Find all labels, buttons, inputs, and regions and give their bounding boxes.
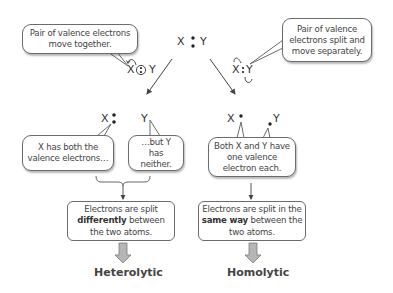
heterolytic-label: Heterolytic <box>94 266 163 279</box>
heterolytic-summary-emphasis: differently <box>77 215 126 225</box>
single-electron-dots-icon <box>239 114 271 125</box>
callout-pair-moves-together: Pair of valence electrons move together. <box>22 24 138 54</box>
heterolytic-mechanism-y: Y <box>149 63 156 76</box>
heterolytic-summary-box: Electrons are split differently between … <box>67 201 175 241</box>
heterolytic-summary-pre: Electrons are split <box>84 204 157 214</box>
callout-x-has-both: X has both the valence electrons… <box>22 135 114 171</box>
homolytic-mechanism-x: X <box>232 63 240 76</box>
molecule-atom-y: Y <box>200 35 207 48</box>
homolytic-product-y: Y <box>273 112 280 125</box>
homolytic-product-x: X <box>227 112 235 125</box>
heterolytic-product-x: X <box>101 112 109 125</box>
homolytic-mechanism-y: Y <box>246 63 253 76</box>
homolytic-summary-emphasis: same way <box>202 215 248 225</box>
shared-electron-pair-icon <box>191 36 194 47</box>
callout-y-has-neither: …but Y has neither. <box>128 135 184 171</box>
heterolytic-result-arrow <box>115 243 131 263</box>
heterolytic-mechanism-x: X <box>127 63 135 76</box>
callout-one-electron-each: Both X and Y have one valence electron e… <box>208 137 296 177</box>
homolytic-summary-pre: Electrons are split in the <box>202 204 301 214</box>
grouping-brace <box>96 176 150 186</box>
heterolytic-summary-text: Electrons are split differently between … <box>70 204 172 239</box>
molecule-atom-x: X <box>177 35 185 48</box>
callout-pair-splits: Pair of valence electrons split and move… <box>282 18 372 62</box>
homolytic-label: Homolytic <box>227 266 289 279</box>
homolytic-summary-text: Electrons are split in the same way betw… <box>201 204 303 239</box>
lone-pair-on-x-icon <box>112 113 116 124</box>
homolytic-result-arrow <box>245 243 261 263</box>
homolytic-summary-box: Electrons are split in the same way betw… <box>198 201 306 241</box>
heterolytic-product-y: Y <box>141 112 148 125</box>
